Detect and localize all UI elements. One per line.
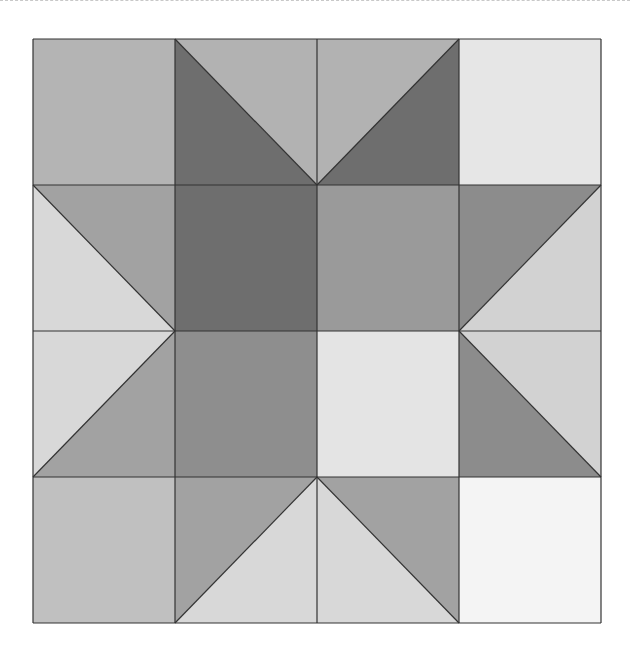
cell-r2-c1-square	[175, 331, 317, 477]
cell-r3-c3-square	[459, 477, 601, 623]
cell-r1-c2-square	[317, 185, 459, 331]
cell-r1-c1-square	[175, 185, 317, 331]
cell-r0-c3-square	[459, 39, 601, 185]
quilt-block-diagram	[0, 0, 630, 653]
cell-r3-c0-square	[33, 477, 175, 623]
cell-r2-c2-square	[317, 331, 459, 477]
cell-r0-c0-square	[33, 39, 175, 185]
